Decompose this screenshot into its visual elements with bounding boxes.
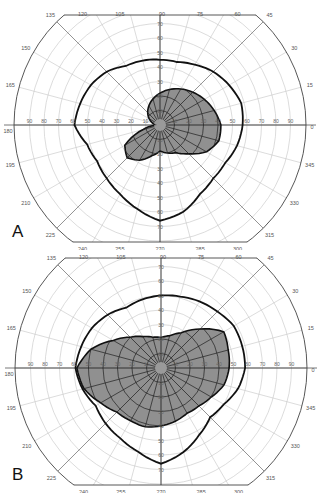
svg-text:240: 240 <box>79 489 88 493</box>
svg-text:345: 345 <box>306 405 315 411</box>
svg-text:90: 90 <box>27 118 33 124</box>
svg-text:70: 70 <box>57 361 63 367</box>
svg-text:210: 210 <box>22 443 31 449</box>
panel-label-b: B <box>12 465 23 485</box>
svg-text:60: 60 <box>245 361 251 367</box>
svg-text:80: 80 <box>273 118 279 124</box>
svg-text:90: 90 <box>159 11 165 17</box>
svg-text:20: 20 <box>129 361 135 367</box>
svg-text:165: 165 <box>6 82 15 88</box>
svg-text:315: 315 <box>266 475 275 481</box>
svg-text:225: 225 <box>47 475 56 481</box>
svg-text:90: 90 <box>288 118 294 124</box>
svg-text:330: 330 <box>291 443 300 449</box>
svg-text:60: 60 <box>157 35 163 41</box>
svg-text:60: 60 <box>157 209 163 215</box>
visual-field-chart-b: 1010202030304040505060607070101020203030… <box>0 243 321 493</box>
svg-text:330: 330 <box>290 200 299 206</box>
svg-text:60: 60 <box>235 254 241 260</box>
svg-text:195: 195 <box>6 162 15 168</box>
svg-text:180: 180 <box>4 371 13 377</box>
svg-text:20: 20 <box>128 118 134 124</box>
svg-text:150: 150 <box>22 288 31 294</box>
svg-text:285: 285 <box>197 489 206 493</box>
svg-text:50: 50 <box>158 438 164 444</box>
svg-text:105: 105 <box>115 11 124 17</box>
svg-text:60: 60 <box>70 118 76 124</box>
svg-text:20: 20 <box>187 361 193 367</box>
svg-text:195: 195 <box>7 405 16 411</box>
svg-text:40: 40 <box>158 423 164 429</box>
svg-text:10: 10 <box>143 118 149 124</box>
svg-text:40: 40 <box>100 361 106 367</box>
svg-text:345: 345 <box>305 162 314 168</box>
svg-text:10: 10 <box>173 361 179 367</box>
svg-text:30: 30 <box>201 118 207 124</box>
svg-text:50: 50 <box>157 50 163 56</box>
svg-text:0: 0 <box>311 367 314 373</box>
svg-text:135: 135 <box>47 255 56 261</box>
svg-text:60: 60 <box>244 118 250 124</box>
svg-text:50: 50 <box>158 293 164 299</box>
svg-text:30: 30 <box>158 322 164 328</box>
svg-text:50: 50 <box>230 118 236 124</box>
svg-text:75: 75 <box>198 254 204 260</box>
svg-text:30: 30 <box>292 288 298 294</box>
svg-text:225: 225 <box>46 232 55 238</box>
svg-text:90: 90 <box>289 361 295 367</box>
svg-text:210: 210 <box>21 200 30 206</box>
svg-text:70: 70 <box>259 118 265 124</box>
svg-text:30: 30 <box>291 45 297 51</box>
svg-text:40: 40 <box>215 118 221 124</box>
svg-text:20: 20 <box>158 336 164 342</box>
svg-text:105: 105 <box>116 254 125 260</box>
svg-text:10: 10 <box>144 361 150 367</box>
svg-text:60: 60 <box>158 278 164 284</box>
svg-text:70: 70 <box>157 21 163 27</box>
svg-text:45: 45 <box>268 255 274 261</box>
svg-text:10: 10 <box>158 380 164 386</box>
svg-text:150: 150 <box>21 45 30 51</box>
svg-text:40: 40 <box>99 118 105 124</box>
svg-text:0: 0 <box>310 124 313 130</box>
svg-text:165: 165 <box>7 325 16 331</box>
svg-text:50: 50 <box>85 118 91 124</box>
svg-text:75: 75 <box>197 11 203 17</box>
svg-text:40: 40 <box>157 64 163 70</box>
svg-text:20: 20 <box>186 118 192 124</box>
svg-text:70: 70 <box>158 467 164 473</box>
svg-text:30: 30 <box>157 166 163 172</box>
svg-text:30: 30 <box>114 118 120 124</box>
svg-text:270: 270 <box>156 489 165 493</box>
svg-text:45: 45 <box>267 12 273 18</box>
svg-text:70: 70 <box>260 361 266 367</box>
svg-text:10: 10 <box>157 108 163 114</box>
svg-text:120: 120 <box>78 11 87 17</box>
svg-text:80: 80 <box>274 361 280 367</box>
panel-label-a: A <box>12 222 23 242</box>
svg-text:80: 80 <box>41 118 47 124</box>
svg-text:60: 60 <box>234 11 240 17</box>
svg-text:30: 30 <box>158 409 164 415</box>
svg-text:30: 30 <box>157 79 163 85</box>
polar-plot-a: 1010202030304040505060607070101020203030… <box>0 0 321 250</box>
svg-text:40: 40 <box>157 180 163 186</box>
svg-text:30: 30 <box>202 361 208 367</box>
svg-text:70: 70 <box>158 264 164 270</box>
svg-text:315: 315 <box>265 232 274 238</box>
svg-text:40: 40 <box>216 361 222 367</box>
svg-text:50: 50 <box>157 195 163 201</box>
svg-text:20: 20 <box>157 93 163 99</box>
svg-text:60: 60 <box>71 361 77 367</box>
svg-text:135: 135 <box>46 12 55 18</box>
svg-text:120: 120 <box>79 254 88 260</box>
svg-text:300: 300 <box>234 489 243 493</box>
polar-plot-b: 1010202030304040505060607070101020203030… <box>0 243 321 493</box>
svg-text:30: 30 <box>115 361 121 367</box>
inner-isopter-shaded <box>125 89 221 160</box>
svg-text:255: 255 <box>116 489 125 493</box>
svg-text:10: 10 <box>158 351 164 357</box>
svg-text:15: 15 <box>307 82 313 88</box>
svg-text:15: 15 <box>308 325 314 331</box>
svg-text:80: 80 <box>42 361 48 367</box>
